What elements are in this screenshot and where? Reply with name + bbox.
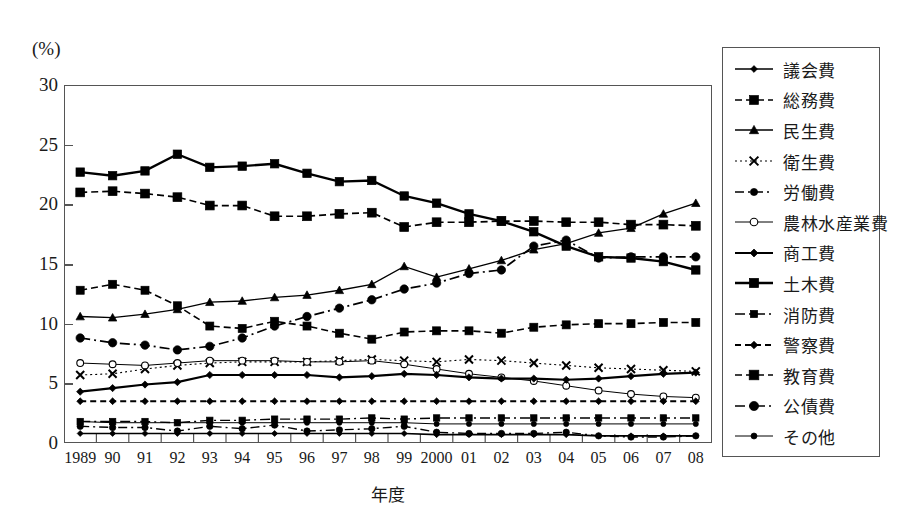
data-point-marker xyxy=(368,280,376,288)
data-point-marker xyxy=(400,285,408,293)
series-line xyxy=(80,191,696,227)
data-point-marker xyxy=(109,385,116,392)
data-point-marker xyxy=(369,425,375,431)
x-axis-tick-label: 91 xyxy=(137,449,153,467)
data-point-marker xyxy=(303,212,312,221)
data-point-marker xyxy=(498,398,505,405)
legend-item-label: 衛生費 xyxy=(783,149,836,174)
data-point-marker xyxy=(628,391,635,398)
series-警察費 xyxy=(77,398,699,405)
data-point-marker xyxy=(563,415,569,421)
x-axis-tick-label: 01 xyxy=(461,449,477,467)
data-point-marker xyxy=(627,365,635,373)
data-point-marker xyxy=(433,327,441,335)
data-point-marker xyxy=(271,357,278,364)
data-point-marker xyxy=(692,266,700,274)
data-point-marker xyxy=(433,398,440,405)
y-axis-unit-label: (%) xyxy=(32,38,60,60)
legend-item[interactable]: 警察費 xyxy=(723,329,879,360)
data-point-marker xyxy=(108,339,116,347)
series-line xyxy=(80,359,696,375)
data-point-marker xyxy=(466,430,472,436)
data-point-marker xyxy=(270,160,278,168)
data-point-marker xyxy=(401,370,408,377)
legend-item[interactable]: 総務費 xyxy=(723,85,879,116)
data-point-marker xyxy=(77,360,84,367)
legend-marker-icon xyxy=(733,214,775,230)
chart-page: (%) 051015202530 19899091929394959697989… xyxy=(0,0,908,524)
series-line xyxy=(80,284,696,339)
data-point-marker xyxy=(659,318,667,326)
y-axis-tick-mark xyxy=(64,145,73,147)
legend-item[interactable]: 教育費 xyxy=(723,360,879,391)
data-point-marker xyxy=(141,189,150,198)
data-point-marker xyxy=(628,434,634,440)
legend-item[interactable]: 公債費 xyxy=(723,391,879,422)
data-point-marker xyxy=(595,375,602,382)
legend-item[interactable]: 労働費 xyxy=(723,176,879,207)
data-point-marker xyxy=(77,388,84,395)
data-point-marker xyxy=(239,398,246,405)
legend-item[interactable]: その他 xyxy=(723,421,879,452)
data-point-marker xyxy=(174,360,181,367)
data-point-marker xyxy=(433,371,440,378)
data-point-marker xyxy=(173,193,182,202)
x-axis-tick-label: 07 xyxy=(655,449,671,467)
x-axis-tick-label: 99 xyxy=(396,449,412,467)
y-axis-tick-label: 25 xyxy=(18,134,58,156)
legend-item[interactable]: 衛生費 xyxy=(723,146,879,177)
y-axis-tick-label: 30 xyxy=(18,74,58,96)
data-point-marker xyxy=(595,433,601,439)
data-point-marker xyxy=(110,420,115,425)
data-point-marker xyxy=(562,361,570,369)
data-point-marker xyxy=(76,371,84,379)
data-point-marker xyxy=(270,212,279,221)
data-point-marker xyxy=(271,398,278,405)
data-point-marker xyxy=(691,221,700,230)
data-point-marker xyxy=(402,420,407,425)
data-point-marker xyxy=(110,430,116,436)
legend-item[interactable]: 民生費 xyxy=(723,115,879,146)
data-point-marker xyxy=(368,373,375,380)
y-axis-labels: 051015202530 xyxy=(14,85,58,443)
data-point-marker xyxy=(304,428,310,434)
data-point-marker xyxy=(432,199,440,207)
legend-item[interactable]: 商工費 xyxy=(723,238,879,269)
data-point-marker xyxy=(499,421,504,426)
legend-item-label: その他 xyxy=(783,424,836,449)
series-農林水産業費 xyxy=(77,357,699,401)
legend-item[interactable]: 土木費 xyxy=(723,268,879,299)
data-point-marker xyxy=(595,387,602,394)
legend-item-label: 労働費 xyxy=(783,179,836,204)
data-point-marker xyxy=(465,269,473,277)
legend-item[interactable]: 農林水産業費 xyxy=(723,207,879,238)
data-point-marker xyxy=(466,421,471,426)
data-point-marker xyxy=(335,209,344,218)
y-axis-tick-mark xyxy=(64,264,73,266)
series-教育費 xyxy=(76,187,700,232)
data-point-marker xyxy=(660,370,667,377)
data-point-marker xyxy=(77,398,84,405)
data-point-marker xyxy=(531,421,536,426)
chart-lines xyxy=(64,85,712,443)
data-point-marker xyxy=(336,398,343,405)
data-point-marker xyxy=(174,428,180,434)
data-point-marker xyxy=(239,425,245,431)
x-axis-tick-label: 94 xyxy=(234,449,250,467)
data-point-marker xyxy=(368,357,375,364)
data-point-marker xyxy=(594,254,602,262)
x-axis-tick-label: 95 xyxy=(267,449,283,467)
data-point-marker xyxy=(141,341,149,349)
legend-item[interactable]: 消防費 xyxy=(723,299,879,330)
x-axis-labels: 1989909192939495969798992000010203040506… xyxy=(64,449,712,475)
data-point-marker xyxy=(660,434,666,440)
data-point-marker xyxy=(400,223,409,232)
x-axis-tick-label: 04 xyxy=(558,449,574,467)
legend-item[interactable]: 議会費 xyxy=(723,54,879,85)
data-point-marker xyxy=(304,398,311,405)
data-point-marker xyxy=(433,429,439,435)
data-point-marker xyxy=(693,421,698,426)
legend-marker-icon xyxy=(733,61,775,77)
data-point-marker xyxy=(238,324,246,332)
data-point-marker xyxy=(206,342,214,350)
